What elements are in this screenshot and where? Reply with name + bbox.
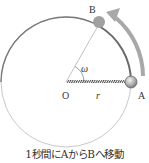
ball-b bbox=[93, 16, 105, 28]
label-r: r bbox=[96, 90, 100, 101]
circular-motion-diagram: B A O r ω bbox=[0, 0, 149, 163]
label-b: B bbox=[89, 4, 96, 15]
arc-a-to-b bbox=[99, 26, 131, 82]
ball-a bbox=[125, 76, 137, 88]
label-o: O bbox=[62, 90, 69, 101]
caption: 1秒間にAからBへ移動 bbox=[0, 146, 149, 161]
label-omega: ω bbox=[81, 63, 88, 74]
label-a: A bbox=[138, 90, 146, 101]
radius-string bbox=[67, 80, 125, 83]
